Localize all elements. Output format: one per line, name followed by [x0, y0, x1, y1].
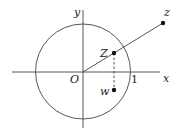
- label-w: w: [100, 85, 110, 98]
- y-axis-label: y: [73, 6, 81, 19]
- point-w: [112, 88, 116, 92]
- point-z: [161, 21, 165, 25]
- diagram: y x O 1 z Z w: [0, 0, 179, 132]
- origin-label: O: [70, 73, 79, 86]
- label-Z: Z: [99, 47, 108, 60]
- label-z: z: [163, 6, 170, 19]
- unit-label: 1: [131, 73, 138, 86]
- x-axis-label: x: [163, 72, 170, 85]
- ray-origin-to-z: [83, 23, 163, 72]
- point-Z: [112, 51, 116, 55]
